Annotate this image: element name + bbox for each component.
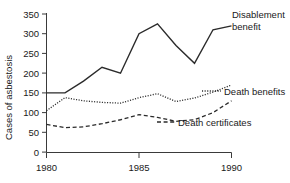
x-tick-label-1985: 1985 bbox=[128, 162, 149, 173]
death-certificates-label: Death certificates bbox=[178, 117, 252, 128]
x-tick-label-1980: 1980 bbox=[36, 162, 57, 173]
disablement-benefit-label-line1: Disablement bbox=[232, 9, 285, 20]
y-axis-ticks bbox=[42, 14, 47, 152]
y-tick-label-50: 50 bbox=[28, 127, 39, 138]
y-tick-label-300: 300 bbox=[23, 28, 39, 39]
death-benefits-label: Death benefits bbox=[224, 86, 286, 97]
series-line-disablement-benefit bbox=[47, 24, 232, 93]
y-tick-label-0: 0 bbox=[34, 147, 39, 158]
asbestosis-cases-line-chart: Cases of asbestosis 350 300 250 200 150 … bbox=[0, 0, 290, 183]
x-axis-tick-labels: 1980 1985 1990 bbox=[36, 162, 242, 173]
y-tick-label-100: 100 bbox=[23, 107, 39, 118]
y-tick-label-250: 250 bbox=[23, 48, 39, 59]
y-tick-label-200: 200 bbox=[23, 68, 39, 79]
chart-canvas: Cases of asbestosis 350 300 250 200 150 … bbox=[0, 0, 290, 183]
series-line-death-benefits bbox=[47, 85, 232, 111]
y-tick-label-150: 150 bbox=[23, 87, 39, 98]
disablement-benefit-label-line2: benefit bbox=[232, 21, 261, 32]
series-annotations: Disablement benefit Death benefits Death… bbox=[178, 9, 286, 128]
y-axis-title: Cases of asbestosis bbox=[3, 55, 14, 140]
x-tick-label-1990: 1990 bbox=[221, 162, 242, 173]
x-axis-ticks bbox=[47, 153, 232, 159]
y-tick-label-350: 350 bbox=[23, 9, 39, 20]
y-axis-tick-labels: 350 300 250 200 150 100 50 0 bbox=[23, 9, 39, 158]
